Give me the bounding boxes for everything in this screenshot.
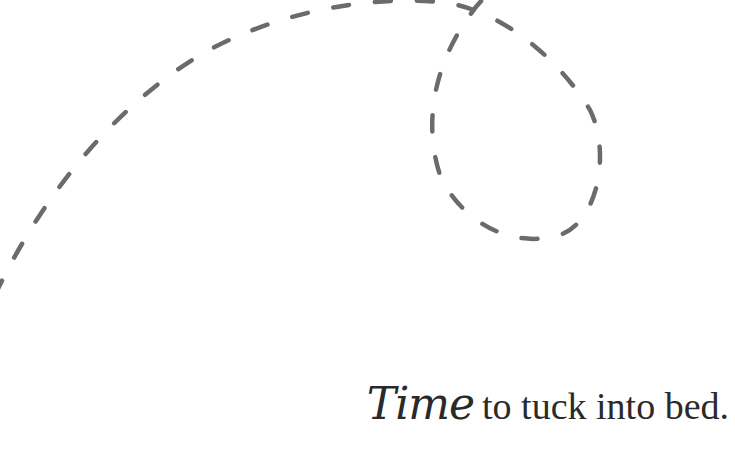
caption-script-word: Time	[367, 378, 474, 429]
caption: Timeto tuck into bed.	[367, 378, 729, 429]
caption-text: to tuck into bed.	[482, 385, 729, 427]
